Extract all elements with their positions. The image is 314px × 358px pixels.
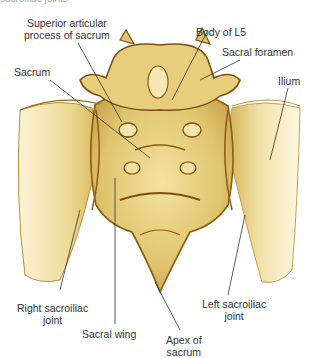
label-left-sacroiliac-joint: Left sacroiliac joint (202, 298, 266, 322)
label-sacral-foramen: Sacral foramen (222, 46, 293, 58)
label-ilium: Ilium (278, 75, 300, 87)
label-superior-articular-process: Superior articular process of sacrum (24, 17, 110, 41)
label-right-sacroiliac-joint: Right sacroiliac joint (17, 302, 88, 326)
right-ilium-shape (18, 102, 98, 281)
sacroiliac-diagram: sacroiliac joints (0, 0, 314, 358)
label-sacral-wing: Sacral wing (82, 328, 136, 340)
label-apex-of-sacrum: Apex of sacrum (166, 334, 202, 358)
label-sacrum: Sacrum (14, 66, 50, 78)
left-ilium-shape (230, 103, 300, 283)
sacrum-shape (91, 92, 233, 292)
label-body-of-l5: Body of L5 (196, 26, 246, 38)
